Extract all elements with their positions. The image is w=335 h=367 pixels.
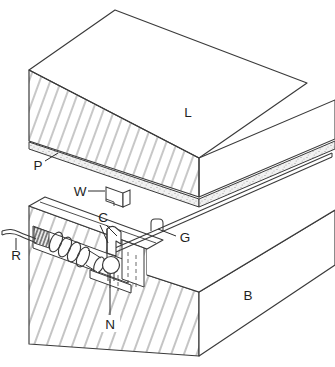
label-clamp-c: C — [98, 210, 108, 225]
patent-figure-svg: P W C G R N L B — [0, 0, 335, 367]
patent-figure: P W C G R N L B — [0, 0, 335, 367]
label-roller-n: N — [105, 317, 115, 332]
wedge-w — [106, 187, 130, 207]
label-wedge-w: W — [74, 184, 87, 199]
label-wire-r: R — [11, 248, 21, 263]
bracket-plate — [122, 240, 144, 287]
label-lower-b: B — [243, 288, 252, 303]
label-plate-p: P — [33, 158, 42, 173]
label-upper-l: L — [184, 105, 192, 120]
label-rod-g: G — [180, 230, 191, 245]
